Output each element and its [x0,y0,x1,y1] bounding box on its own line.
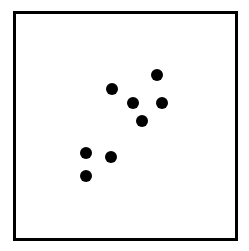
data-point [127,97,139,109]
data-point [156,97,168,109]
data-point [136,115,148,127]
data-point [80,147,92,159]
data-point [106,83,118,95]
data-point [105,151,117,163]
data-point [80,170,92,182]
scatter-plot [0,0,249,251]
data-point [151,69,163,81]
